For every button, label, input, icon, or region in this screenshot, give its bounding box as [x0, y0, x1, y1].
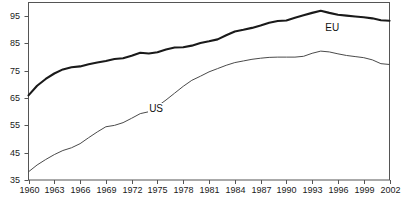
- y-tick-label: 55: [0, 120, 20, 130]
- y-tick-label: 45: [0, 148, 20, 158]
- x-tick-label: 2002: [374, 185, 405, 195]
- y-tick-label: 65: [0, 93, 20, 103]
- y-tick-label: 85: [0, 38, 20, 48]
- y-axis-ticks: [25, 17, 29, 181]
- series-annotation-eu: EU: [324, 22, 340, 33]
- y-tick-label: 95: [0, 11, 20, 21]
- y-tick-label: 75: [0, 66, 20, 76]
- series-lines: [29, 11, 390, 172]
- series-line-us: [29, 51, 390, 172]
- x-axis-ticks: [30, 180, 391, 184]
- y-tick-label: 35: [0, 175, 20, 185]
- series-annotation-us: US: [148, 103, 164, 114]
